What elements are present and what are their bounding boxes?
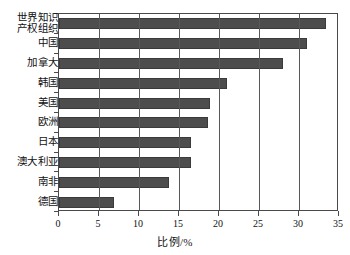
x-axis-tick: [98, 211, 99, 216]
bar-slot: [59, 14, 326, 34]
bar-chart: 世界知识 产权组织中国加拿大韩国美国欧洲日本澳大利亚南非德国 051015202…: [0, 0, 350, 255]
bar-slot: [59, 192, 114, 211]
x-axis-tick-label: 25: [243, 218, 273, 229]
bar: [59, 98, 210, 109]
x-axis-tick: [58, 211, 59, 216]
y-axis-tick: [54, 132, 59, 133]
y-axis-tick: [54, 92, 59, 93]
y-axis-tick: [54, 72, 59, 73]
category-label: 南非: [38, 176, 58, 187]
x-axis-tick: [298, 211, 299, 216]
category-label: 澳大利亚: [17, 156, 58, 167]
category-label: 加拿大: [27, 57, 58, 68]
y-axis-tick: [54, 112, 59, 113]
bar-slot: [59, 54, 283, 74]
bar: [59, 197, 114, 208]
x-axis-tick-label: 5: [83, 218, 113, 229]
x-axis-tick-label: 35: [323, 218, 350, 229]
x-axis-tick: [178, 211, 179, 216]
x-axis-tick: [338, 211, 339, 216]
x-axis-tick: [218, 211, 219, 216]
y-axis-tick: [54, 53, 59, 54]
category-label: 日本: [38, 136, 58, 147]
category-label: 欧洲: [38, 116, 58, 127]
bar-slot: [59, 133, 191, 153]
x-axis-title: 比例/%: [0, 233, 350, 249]
bar: [59, 18, 326, 29]
bars-layer: [59, 14, 337, 210]
bar: [59, 38, 307, 49]
x-axis-tick-label: 20: [203, 218, 233, 229]
y-axis-tick: [54, 152, 59, 153]
bar-slot: [59, 153, 191, 173]
bar-slot: [59, 93, 210, 113]
y-axis-tick: [54, 171, 59, 172]
x-axis-tick-label: 30: [283, 218, 313, 229]
bar-slot: [59, 113, 208, 133]
x-axis-tick: [138, 211, 139, 216]
bar-slot: [59, 172, 169, 192]
y-axis-tick: [54, 191, 59, 192]
category-label: 中国: [38, 37, 58, 48]
bar: [59, 58, 283, 69]
bar: [59, 157, 191, 168]
x-axis-tick-label: 10: [123, 218, 153, 229]
bar: [59, 117, 208, 128]
bar-slot: [59, 34, 307, 54]
x-axis-tick: [258, 211, 259, 216]
category-label: 世界知识 产权组织: [17, 12, 58, 34]
x-axis-tick-label: 15: [163, 218, 193, 229]
category-label: 韩国: [38, 77, 58, 88]
x-axis-tick-label: 0: [43, 218, 73, 229]
bar: [59, 78, 227, 89]
bar: [59, 177, 169, 188]
bar: [59, 137, 191, 148]
bar-slot: [59, 73, 227, 93]
category-label: 美国: [38, 97, 58, 108]
category-label: 德国: [38, 196, 58, 207]
plot-area: [58, 13, 338, 211]
